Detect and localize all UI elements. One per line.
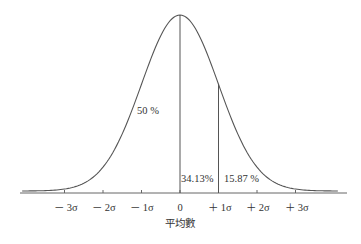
tick-label: ＋ 2σ	[246, 202, 270, 213]
annotation-34-percent: 34.13%	[181, 173, 214, 184]
tick-label: ＋ 3σ	[285, 202, 309, 213]
tick-label: － 1σ	[130, 202, 154, 213]
tick-label: 0	[177, 202, 182, 213]
normal-distribution-chart: 50 % 34.13% 15.87 % － 3σ － 2σ － 1σ 0 ＋ 1…	[0, 0, 361, 244]
annotation-15-percent: 15.87 %	[224, 173, 259, 184]
tick-label: － 3σ	[54, 202, 78, 213]
annotation-50-percent: 50 %	[137, 105, 159, 116]
tick-label: － 2σ	[92, 202, 116, 213]
x-axis-label: 平均數	[165, 217, 196, 229]
x-tick-labels: － 3σ － 2σ － 1σ 0 ＋ 1σ ＋ 2σ ＋ 3σ	[54, 202, 309, 213]
tick-label: ＋ 1σ	[208, 202, 232, 213]
